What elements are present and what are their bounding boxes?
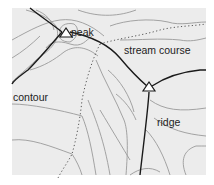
peak-label: peak bbox=[71, 27, 94, 38]
stream-course-label: stream course bbox=[124, 45, 191, 56]
contour-label: contour bbox=[13, 92, 48, 103]
ridge-label: ridge bbox=[157, 117, 180, 128]
